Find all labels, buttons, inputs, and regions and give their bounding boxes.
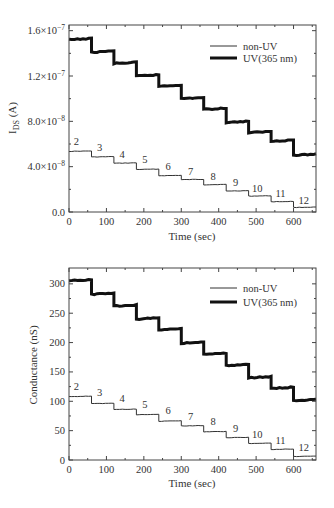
ids-y-axis-title: IDS (A) [6, 102, 21, 134]
x-tick-label: 100 [99, 464, 115, 475]
step-number-label: 5 [142, 399, 147, 410]
y-tick-label: 0.0 [52, 207, 65, 218]
y-tick-label: 300 [49, 278, 65, 289]
step-number-label: 4 [120, 149, 126, 160]
step-number-label: 12 [298, 442, 309, 453]
conductance-step-labels: 23456789101112 [74, 381, 309, 454]
step-number-label: 10 [252, 429, 263, 440]
x-tick-label: 0 [66, 216, 71, 227]
y-tick-label: 4.0×10−8 [27, 159, 65, 172]
step-number-label: 3 [97, 142, 102, 153]
ids-step-labels: 23456789101112 [74, 136, 309, 206]
step-number-label: 6 [166, 405, 171, 416]
step-number-label: 7 [188, 166, 193, 177]
step-number-label: 10 [252, 183, 263, 194]
legend-uv-label: UV(365 nm) [243, 297, 297, 309]
non-uv-series-line [69, 396, 316, 457]
x-tick-label: 300 [173, 216, 189, 227]
x-tick-label: 100 [99, 216, 115, 227]
legend-non-uv-label: non-UV [243, 41, 278, 52]
y-tick-label: 150 [49, 366, 65, 377]
step-number-label: 6 [166, 161, 171, 172]
y-tick-label: 100 [49, 396, 65, 407]
ids-legend: non-UV UV(365 nm) [210, 41, 297, 65]
figure: 01002003004005006000.04.0×10−88.0×10−81.… [0, 0, 334, 508]
y-tick-label: 50 [55, 425, 66, 436]
x-tick-label: 600 [286, 216, 302, 227]
ids-series-layer [69, 38, 316, 208]
step-number-label: 11 [275, 188, 285, 199]
y-tick-label: 200 [49, 337, 65, 348]
step-number-label: 4 [120, 393, 126, 404]
legend-uv-label: UV(365 nm) [243, 53, 297, 65]
x-tick-label: 300 [173, 464, 189, 475]
x-tick-label: 500 [248, 464, 264, 475]
step-number-label: 8 [210, 416, 215, 427]
conductance-x-axis-title: Time (sec) [169, 477, 216, 490]
step-number-label: 11 [275, 435, 285, 446]
x-tick-label: 0 [66, 464, 71, 475]
y-tick-label: 1.6×10−7 [27, 23, 65, 36]
y-tick-label: 1.2×10−7 [27, 69, 65, 82]
x-tick-label: 200 [136, 216, 152, 227]
step-number-label: 2 [74, 381, 79, 392]
step-number-label: 5 [142, 154, 147, 165]
x-tick-label: 400 [211, 464, 227, 475]
x-tick-label: 600 [286, 464, 302, 475]
x-tick-label: 200 [136, 464, 152, 475]
conductance-chart: 0100200300400500600050100150200250300 23… [27, 268, 316, 490]
x-tick-label: 500 [248, 216, 264, 227]
conductance-legend: non-UV UV(365 nm) [210, 283, 297, 309]
conductance-y-axis-title: Conductance (nS) [27, 325, 40, 404]
y-tick-label: 8.0×10−8 [27, 114, 65, 127]
step-number-label: 3 [97, 387, 102, 398]
ids-chart: 01002003004005006000.04.0×10−88.0×10−81.… [6, 23, 316, 243]
step-number-label: 9 [233, 423, 238, 434]
y-tick-label: 250 [49, 308, 65, 319]
step-number-label: 2 [74, 136, 79, 147]
step-number-label: 12 [298, 195, 309, 206]
x-tick-label: 400 [211, 216, 227, 227]
y-tick-label: 0 [60, 455, 65, 466]
step-number-label: 8 [210, 171, 215, 182]
legend-non-uv-label: non-UV [243, 283, 278, 294]
step-number-label: 9 [233, 177, 238, 188]
step-number-label: 7 [188, 411, 193, 422]
ids-x-axis-title: Time (sec) [169, 230, 216, 243]
